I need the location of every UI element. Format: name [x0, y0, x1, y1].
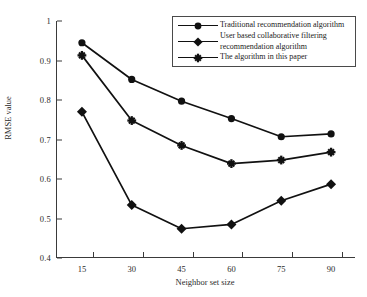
series-0-data-point: [128, 76, 135, 83]
series-0-data-point: [228, 115, 235, 122]
y-axis-tick-label: 0.7: [40, 135, 57, 145]
legend-marker-star-icon: [176, 52, 220, 63]
legend-item-user-based-cf[interactable]: User based collaborative filtering recom…: [176, 31, 351, 52]
series-line: [82, 112, 331, 229]
y-axis-tick-mark: [57, 60, 62, 61]
legend-label: User based collaborative filtering recom…: [220, 31, 327, 52]
legend-marker-circle-icon: [176, 20, 220, 31]
series-1-data-point: [177, 224, 187, 234]
series-0-data-point: [327, 130, 334, 137]
series-2-data-point: [277, 156, 286, 165]
y-axis-tick-label: 0.9: [40, 56, 57, 66]
x-axis-tick-label: 60: [227, 264, 236, 274]
x-axis-tick-mark: [342, 252, 343, 257]
series-1-data-point: [127, 200, 137, 210]
y-axis-tick-label: 0.4: [40, 253, 57, 263]
series-1-data-point: [326, 179, 336, 189]
y-axis-tick-label: 0.5: [40, 214, 57, 224]
series-0-data-point: [278, 133, 285, 140]
legend-item-this-paper[interactable]: The algorithm in this paper: [176, 52, 351, 63]
x-axis-tick-mark: [193, 252, 194, 257]
legend-item-traditional[interactable]: Traditional recommendation algorithm: [176, 20, 351, 31]
y-axis-tick-mark: [57, 21, 62, 22]
x-axis-tick-label: 15: [78, 264, 87, 274]
series-0-data-point: [178, 98, 185, 105]
series-2-data-point: [327, 148, 336, 157]
series-1-data-point: [276, 196, 286, 206]
x-axis-tick-mark: [93, 252, 94, 257]
legend-label: Traditional recommendation algorithm: [220, 20, 344, 31]
x-axis-tick-label: 90: [327, 264, 336, 274]
legend-marker-diamond-icon: [176, 36, 220, 47]
series-1-data-point: [226, 219, 236, 229]
series-2-data-point: [177, 141, 186, 150]
series-2-data-point: [227, 159, 236, 168]
x-axis-tick-label: 30: [128, 264, 137, 274]
y-axis-tick-mark: [57, 179, 62, 180]
y-axis-tick-label: 1: [47, 16, 57, 26]
series-1-data-point: [77, 107, 87, 117]
x-axis-tick-mark: [292, 252, 293, 257]
legend: Traditional recommendation algorithm Use…: [172, 16, 356, 67]
rmse-line-chart: RMSE value 10.90.80.70.60.50.41530456075…: [0, 0, 367, 297]
y-axis-tick-label: 0.6: [40, 174, 57, 184]
y-axis-tick-mark: [57, 218, 62, 219]
y-axis-tick-label: 0.8: [40, 95, 57, 105]
y-axis-title: RMSE value: [3, 96, 13, 140]
series-0-data-point: [78, 39, 85, 46]
x-axis-tick-mark: [143, 252, 144, 257]
y-axis-tick-mark: [57, 139, 62, 140]
x-axis-tick-label: 45: [177, 264, 186, 274]
y-axis-tick-mark: [57, 258, 62, 259]
x-axis-tick-mark: [242, 252, 243, 257]
legend-label: The algorithm in this paper: [220, 52, 307, 63]
y-axis-tick-mark: [57, 100, 62, 101]
x-axis-title: Neighbor set size: [175, 277, 234, 287]
x-axis-tick-label: 75: [277, 264, 286, 274]
